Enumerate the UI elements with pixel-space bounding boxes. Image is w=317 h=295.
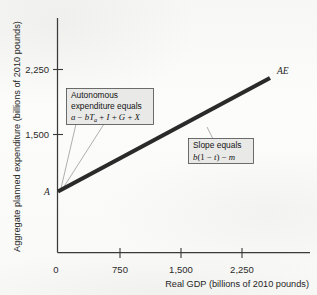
callout-slope-formula: b(1 − t) − m — [193, 152, 235, 162]
x-tick-label-2250: 2,250 — [230, 264, 254, 275]
callout-slope-line-1: Slope equals — [193, 140, 241, 150]
callout-autonomous-line-2: expenditure equals — [71, 101, 142, 111]
point-label-a: A — [43, 187, 50, 197]
y-tick-label-2250: 2,250 — [25, 64, 49, 75]
callout-autonomous-formula: a − bTa + I + G + X — [71, 112, 141, 123]
y-tick-label-1500: 1,500 — [25, 129, 49, 140]
chart-svg: 2,250 1,500 0 750 1,500 2,250 Real GDP (… — [0, 0, 317, 295]
x-tick-label-0: 0 — [53, 264, 58, 275]
x-tick-label-1500: 1,500 — [169, 264, 193, 275]
x-axis-title: Real GDP (billions of 2010 pounds) — [165, 279, 309, 289]
callout-autonomous-line-1: Autonomous — [71, 90, 118, 100]
x-tick-label-750: 750 — [112, 264, 128, 275]
callout-autonomous-expenditure: Autonomous expenditure equals a − bTa + … — [67, 89, 154, 125]
axes-group — [58, 18, 311, 253]
aggregate-expenditure-chart: 2,250 1,500 0 750 1,500 2,250 Real GDP (… — [0, 0, 317, 295]
callout-slope: Slope equals b(1 − t) − m — [189, 139, 254, 164]
y-axis-title: Aggregate planned expenditure (billions … — [12, 21, 22, 252]
ae-curve-label: AE — [276, 66, 289, 76]
